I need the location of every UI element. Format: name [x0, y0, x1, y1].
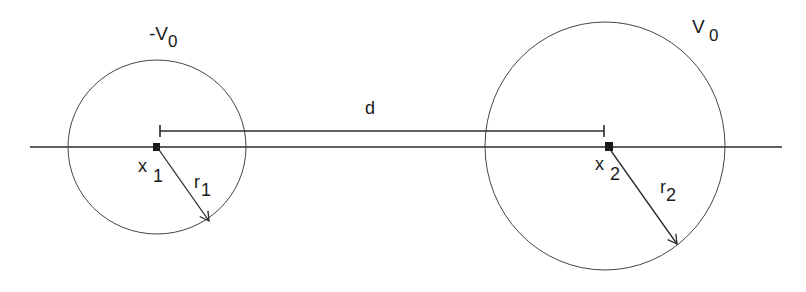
radius-label-left: r 1 [194, 172, 211, 200]
svg-text:0: 0 [168, 32, 177, 51]
svg-text:r: r [194, 172, 200, 192]
svg-text:2: 2 [610, 164, 620, 184]
svg-text:2: 2 [666, 185, 676, 205]
svg-text:x: x [595, 154, 604, 174]
svg-text:-V: -V [149, 23, 168, 44]
distance-label: d [365, 98, 375, 118]
center-label-left: x 1 [138, 156, 163, 186]
svg-text:1: 1 [153, 166, 163, 186]
radius-label-right: r 2 [660, 177, 676, 205]
distance-dimension [160, 125, 604, 137]
potential-label-left: -V 0 [149, 23, 177, 51]
diagram-canvas: -V 0 V 0 d x 1 x 2 r 1 r 2 [0, 0, 806, 292]
svg-text:V: V [692, 16, 705, 37]
potential-label-right: V 0 [692, 16, 718, 45]
center-marker-right [605, 142, 613, 151]
svg-text:0: 0 [709, 26, 718, 45]
svg-text:1: 1 [201, 180, 211, 200]
svg-text:x: x [138, 156, 147, 176]
